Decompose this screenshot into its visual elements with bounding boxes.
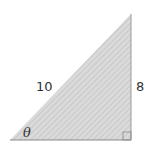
opposite-side-label: 8 [136, 80, 144, 93]
hypotenuse-label: 10 [36, 80, 53, 93]
triangle-shape [10, 14, 131, 140]
angle-theta-label: θ [23, 126, 31, 139]
